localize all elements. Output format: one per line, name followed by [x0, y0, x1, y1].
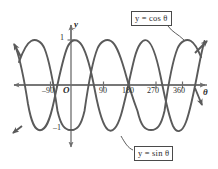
cos-leader-line [168, 26, 184, 40]
y-tick-label-minus-1: –1 [53, 123, 61, 132]
cos-curve-callout: y = cos θ [131, 11, 172, 26]
x-axis-label: θ [203, 87, 208, 97]
origin-label: O [63, 85, 70, 95]
plot-canvas [0, 0, 218, 169]
cos-left-arrow-icon [13, 126, 22, 133]
x-tick-label--90: –90 [42, 86, 54, 95]
x-tick-label-180: 180 [122, 86, 134, 95]
y-axis-label: y [74, 19, 78, 29]
x-tick-label-270: 270 [147, 86, 159, 95]
sin-curve-callout: y = sin θ [134, 146, 173, 161]
x-tick-label-90: 90 [99, 86, 107, 95]
x-tick-label-360: 360 [173, 86, 185, 95]
y-tick-label-1: 1 [60, 33, 64, 42]
cos-right-arrow-icon [195, 88, 202, 105]
sin-leader-line [121, 136, 133, 150]
trig-graph-figure: –90 90 180 270 360 1 –1 O y θ y = cos θ … [0, 0, 218, 169]
